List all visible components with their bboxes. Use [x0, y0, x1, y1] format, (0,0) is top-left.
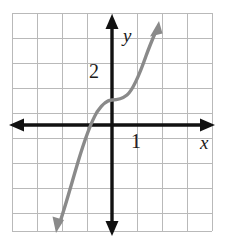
y-axis-label: y — [123, 26, 131, 45]
graph-figure: y x 2 1 — [0, 0, 225, 252]
y-axis-tick-label-2: 2 — [89, 61, 99, 81]
y-axis-bottom-arrowhead — [106, 221, 119, 236]
x-axis-right-arrowhead — [200, 119, 215, 132]
y-axis-top-arrowhead — [106, 14, 119, 29]
x-axis-label: x — [200, 133, 208, 152]
coordinate-plane — [0, 0, 225, 252]
cubic-curve — [53, 21, 163, 233]
x-axis-left-arrowhead — [9, 119, 24, 132]
curve-upper-arrowhead — [150, 21, 163, 37]
x-axis-tick-label-1: 1 — [131, 131, 141, 151]
